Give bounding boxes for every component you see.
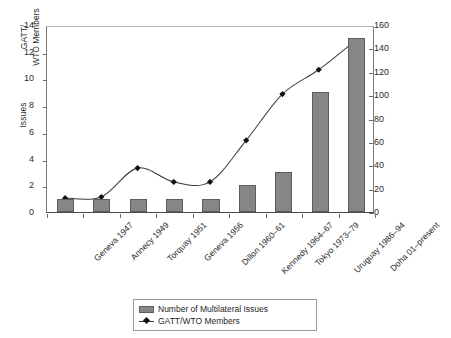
legend-item-bars: Number of Multilateral Issues <box>139 303 311 315</box>
bar <box>312 92 329 212</box>
right-tick-label-60: 60 <box>374 138 398 147</box>
right-tick-label-120: 120 <box>374 68 398 77</box>
left-tick-mark-8 <box>43 107 47 108</box>
right-axis-tick-labels: 160140120100806040200 <box>374 0 398 338</box>
legend-item-line-label: GATT/WTO Members <box>158 316 240 326</box>
legend-line-diamond-icon <box>139 317 154 325</box>
left-tick-label-4: 4 <box>14 155 34 164</box>
legend-bar-swatch-icon <box>139 306 154 313</box>
x-tick-mark <box>375 214 376 218</box>
left-tick-label-0: 0 <box>14 208 34 217</box>
x-axis-label: Geneva 1947 <box>92 220 135 263</box>
right-tick-label-160: 160 <box>374 21 398 30</box>
bar <box>57 199 74 212</box>
left-tick-label-8: 8 <box>14 101 34 110</box>
right-tick-label-20: 20 <box>374 185 398 194</box>
right-tick-label-0: 0 <box>374 208 398 217</box>
left-tick-mark-2 <box>43 187 47 188</box>
legend-item-line: GATT/WTO Members <box>139 315 311 327</box>
bar <box>239 185 256 212</box>
right-tick-label-100: 100 <box>374 91 398 100</box>
x-axis-category-labels: Geneva 1947Annecy 1949Torquay 1951Geneva… <box>46 214 374 294</box>
bar <box>348 38 365 212</box>
legend-item-bars-label: Number of Multilateral Issues <box>158 304 268 314</box>
bar <box>130 199 147 212</box>
line-data-point-marker: Geneva 1956: 26 <box>171 179 177 185</box>
left-tick-mark-6 <box>43 134 47 135</box>
left-tick-mark-10 <box>43 80 47 81</box>
right-tick-label-140: 140 <box>374 44 398 53</box>
left-tick-mark-4 <box>43 161 47 162</box>
right-axis-title-line-1: GATT/ <box>19 0 29 87</box>
left-tick-label-6: 6 <box>14 128 34 137</box>
bar <box>202 199 219 212</box>
right-axis-title-line-2: WTO Members <box>31 0 41 87</box>
left-tick-label-2: 2 <box>14 181 34 190</box>
line-data-point-marker: Torquay 1951: 38 <box>134 165 140 171</box>
bar <box>275 172 292 212</box>
right-tick-label-80: 80 <box>374 115 398 124</box>
bar <box>166 199 183 212</box>
combo-chart: Issues 14121086420 160140120100806040200… <box>0 0 451 338</box>
left-tick-mark-12 <box>43 54 47 55</box>
bar <box>93 199 110 212</box>
chart-legend: Number of Multilateral Issues GATT/WTO M… <box>133 299 317 331</box>
x-axis-label: Dillon 1960–61 <box>240 220 287 267</box>
right-tick-label-40: 40 <box>374 161 398 170</box>
plot-area: Geneva 1947: 12Annecy 1949: 13Torquay 19… <box>46 26 374 213</box>
line-data-point-marker: Dillon 1960–61: 26 <box>207 179 213 185</box>
